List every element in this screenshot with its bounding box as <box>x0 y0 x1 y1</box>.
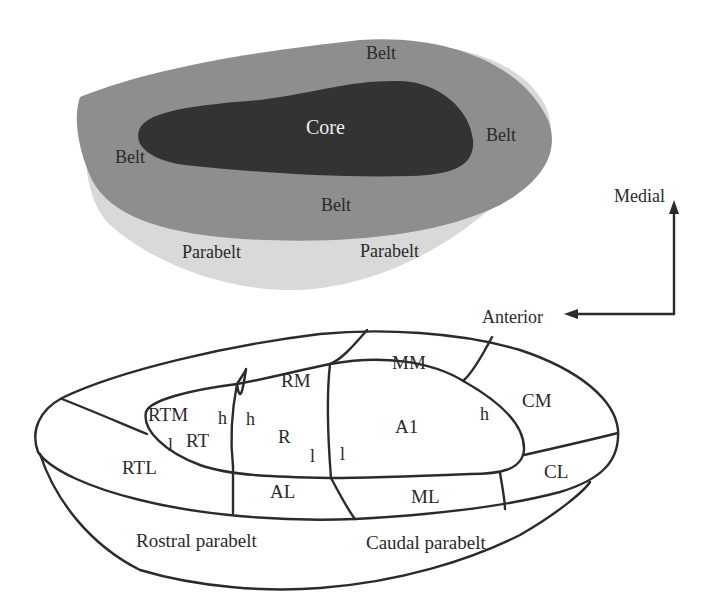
area-label-rtm: RTM <box>148 404 188 425</box>
bottom-panel: RTM RM MM CM RT R A1 RTL AL ML CL Rostra… <box>35 330 618 589</box>
parabelt-label-left: Parabelt <box>182 242 241 262</box>
figure-canvas: Core Belt Belt Belt Belt Parabelt Parabe… <box>0 0 703 607</box>
medial-label: Medial <box>614 186 665 206</box>
marker-a1-low: l <box>340 444 345 464</box>
area-label-al: AL <box>270 481 295 502</box>
auditory-cortex-figure: Core Belt Belt Belt Belt Parabelt Parabe… <box>0 0 703 607</box>
marker-rt-low: l <box>168 435 173 455</box>
orientation-axes: Medial Anterior <box>482 186 679 327</box>
marker-a1-high: h <box>480 404 489 424</box>
divider-r-a1 <box>328 364 331 478</box>
area-label-rostral-parabelt: Rostral parabelt <box>136 530 258 551</box>
divider-mm-cm <box>463 337 492 381</box>
area-label-caudal-parabelt: Caudal parabelt <box>366 532 486 553</box>
area-label-rtl: RTL <box>122 457 157 478</box>
belt-label-left: Belt <box>115 147 145 167</box>
divider-al-ml <box>331 478 355 519</box>
belt-label-top: Belt <box>366 43 396 63</box>
core-label: Core <box>306 116 345 138</box>
top-panel: Core Belt Belt Belt Belt Parabelt Parabe… <box>77 39 552 290</box>
divider-rtm-rtl <box>62 399 147 434</box>
area-label-cm: CM <box>522 390 552 411</box>
parabelt-label-right: Parabelt <box>360 241 419 261</box>
belt-label-right: Belt <box>486 125 516 145</box>
medial-arrow-icon <box>669 200 679 214</box>
anterior-label: Anterior <box>482 307 543 327</box>
divider-rt-r <box>232 384 237 466</box>
divider-cm-cl <box>524 433 618 455</box>
anterior-arrow-icon <box>564 309 578 319</box>
marker-r-low: l <box>310 446 315 466</box>
belt-label-bottom: Belt <box>321 195 351 215</box>
area-label-ml: ML <box>411 486 440 507</box>
marker-rt-high: h <box>218 408 227 428</box>
divider-rm-mm <box>330 330 367 364</box>
area-label-r: R <box>278 426 291 447</box>
marker-r-high: h <box>246 409 255 429</box>
area-label-a1: A1 <box>395 416 418 437</box>
area-label-rt: RT <box>186 430 210 451</box>
belt-outer-outline <box>35 331 618 519</box>
area-label-mm: MM <box>392 352 426 373</box>
area-label-cl: CL <box>544 461 568 482</box>
area-label-rm: RM <box>281 370 311 391</box>
